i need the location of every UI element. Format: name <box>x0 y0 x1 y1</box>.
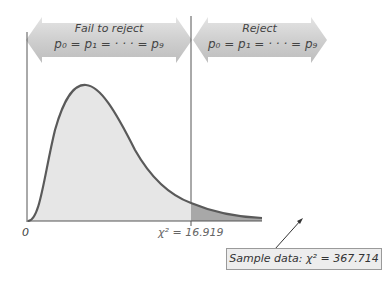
origin-label: 0 <box>22 226 29 239</box>
fail-to-reject-hypothesis: p₀ = p₁ = · · · = p₉ <box>42 37 176 51</box>
reject-title: Reject <box>208 22 311 35</box>
reject-hypothesis: p₀ = p₁ = · · · = p₉ <box>208 37 311 51</box>
sample-data-box: Sample data: χ² = 367.714 <box>226 248 382 270</box>
critical-value-label: χ² = 16.919 <box>158 226 224 239</box>
sample-pointer-line <box>275 220 301 249</box>
fail-to-reject-title: Fail to reject <box>42 22 176 35</box>
